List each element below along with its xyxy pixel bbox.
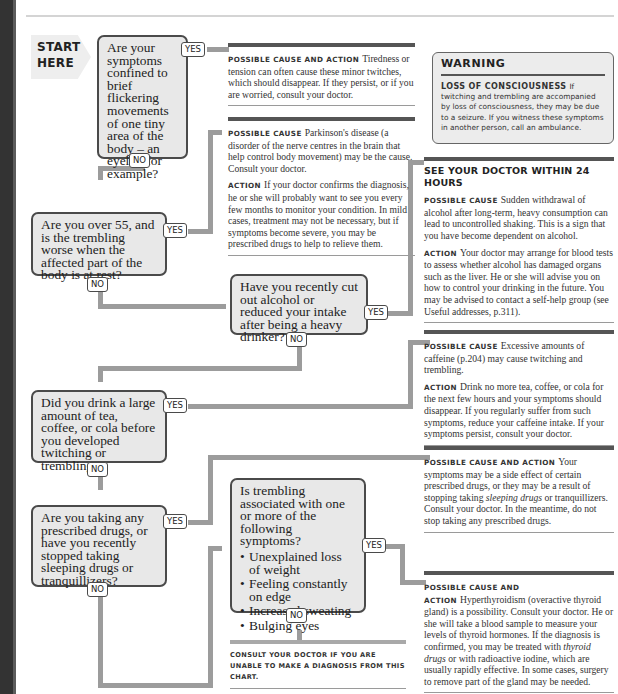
yes-tag: YES [163, 398, 187, 413]
footer-rule [230, 688, 406, 689]
answer-1: Possible cause and actionTiredness or te… [228, 43, 415, 106]
connector-q4-yes-v [408, 340, 413, 409]
answer-text: or with radioactive iodine, which are us… [424, 653, 609, 687]
answer-4: Possible causeExcessive amounts of caffe… [424, 330, 614, 446]
question-text: Are you taking any prescribed drugs, or … [41, 512, 157, 588]
answer-italic: sleeping drugs [486, 492, 542, 503]
no-tag: NO [87, 277, 108, 292]
answer-bar [424, 446, 614, 450]
answer-5: Possible cause and actionYour symptoms m… [424, 446, 614, 533]
answer-3: SEE YOUR DOCTOR WITHIN 24 HOURS Possible… [424, 157, 614, 323]
connector-q6-yes-bot [400, 580, 426, 585]
answer-bar [228, 117, 415, 121]
connector-q6-yes-v [400, 544, 405, 584]
no-tag: NO [129, 153, 150, 168]
answer-bar [424, 330, 614, 334]
chart-footer: Consult your doctor if you are unable to… [230, 640, 406, 689]
answer-rule [228, 105, 415, 106]
no-tag: NO [286, 332, 307, 347]
urgency-heading: SEE YOUR DOCTOR WITHIN 24 HOURS [424, 165, 614, 188]
yes-tag: YES [163, 514, 187, 529]
question-box-5: Are you taking any prescribed drugs, or … [31, 505, 167, 587]
question-box-1: Are your symptoms confined to brief flic… [97, 35, 188, 159]
warning-label: Loss of consciousness [441, 82, 566, 91]
answer-bar [424, 157, 614, 161]
yes-tag: YES [362, 538, 386, 553]
symptom-item: Feeling constantly on edge [240, 578, 356, 603]
connector-q1-yes [207, 47, 229, 52]
answer-rule [228, 255, 415, 256]
start-here-marker: START HERE [31, 35, 91, 79]
connector-q5-no-v [98, 592, 103, 688]
action-label: Action [424, 249, 457, 258]
no-tag: NO [87, 582, 108, 597]
answer-label: Possible cause and action [424, 458, 555, 467]
cause-label: Possible cause [228, 129, 302, 138]
answer-bar [228, 43, 415, 47]
connector-q3-no-v2 [98, 366, 103, 382]
question-text: Is trembling associated with one or more… [240, 485, 356, 548]
connector-q5-yes-v [208, 455, 213, 525]
question-box-2: Are you over 55, and is the trembling wo… [31, 212, 167, 276]
action-label: Action [228, 181, 261, 190]
answer-6: Possible cause and actionHyperthyroidism… [424, 571, 614, 693]
connector-q1-no-v2 [98, 166, 103, 180]
start-label: START HERE [37, 39, 77, 71]
yes-tag: YES [181, 42, 205, 57]
answer-rule [424, 532, 614, 533]
question-box-4: Did you drink a large amount of tea, cof… [31, 390, 167, 463]
answer-label: Possible cause and action [228, 55, 359, 64]
warning-title: WARNING [441, 57, 605, 70]
no-tag: NO [286, 608, 307, 623]
answer-rule [424, 692, 614, 693]
yes-tag: YES [163, 223, 187, 238]
answer-rule [424, 322, 614, 323]
top-divider [26, 15, 614, 17]
connector-q2-no-h [98, 304, 226, 309]
warning-box: WARNING Loss of consciousnessIf twitchin… [432, 52, 614, 144]
cause-label: Possible cause [424, 342, 498, 351]
answer-2: Possible causeParkinson's disease (a dis… [228, 117, 415, 256]
yes-tag: YES [364, 305, 388, 320]
connector-q4-yes-h [188, 404, 412, 409]
connector-q2-yes-top [208, 130, 222, 135]
footer-text: Consult your doctor if you are unable to… [230, 650, 406, 683]
connector-q5-yes-top [208, 455, 430, 460]
connector-q2-yes-v [208, 130, 213, 234]
no-tag: NO [87, 462, 108, 477]
question-text: Are you over 55, and is the trembling wo… [41, 219, 157, 282]
footer-bar [230, 640, 406, 644]
question-box-6: Is trembling associated with one or more… [230, 478, 366, 613]
connector-q5-no-v2 [208, 546, 213, 688]
connector-q5-no-top [208, 546, 222, 551]
warning-divider [441, 74, 605, 76]
connector-q3-no-h [98, 366, 302, 371]
cause-label: Possible cause [424, 196, 498, 205]
answer-bar [424, 571, 614, 575]
symptom-item: Unexplained loss of weight [240, 551, 356, 576]
action-label: Action [424, 383, 457, 392]
page-spine [0, 0, 16, 694]
question-box-3: Have you recently cut out alcohol or red… [230, 274, 368, 335]
connector-q5-no-h [98, 683, 213, 688]
